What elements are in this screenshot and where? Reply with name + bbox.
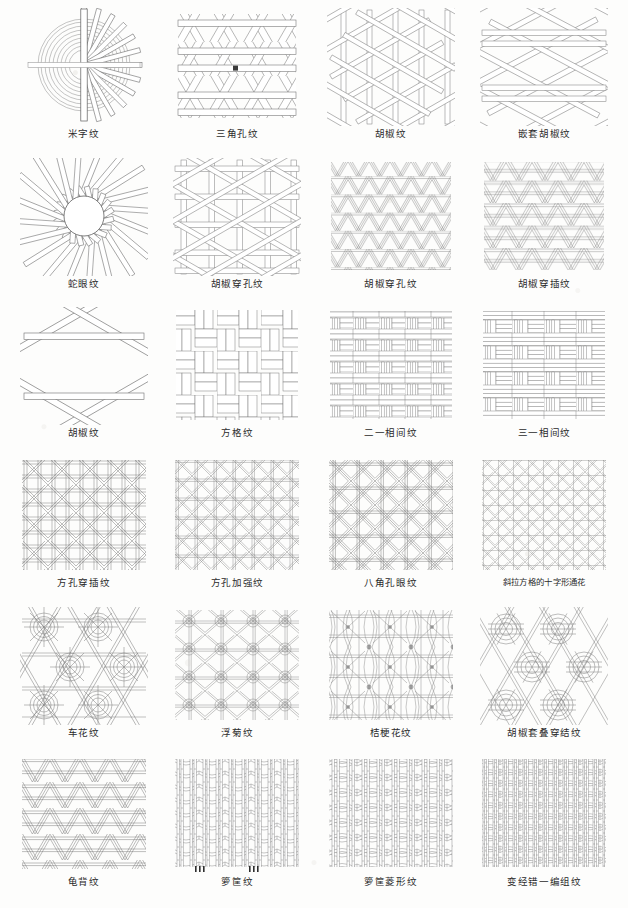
pattern-caption: 斜拉方格的十字形通花	[503, 578, 586, 588]
pattern-caption: 浮菊纹	[221, 728, 253, 739]
pattern-art-wicker-diamond	[317, 756, 465, 874]
pattern-cell-er-yi-xiangjian[interactable]: 二一相间纹	[317, 307, 465, 455]
pattern-caption: 八角孔眼纹	[364, 578, 417, 589]
pattern-caption: 箩筐纹	[221, 877, 253, 888]
pattern-caption: 胡椒纹	[375, 129, 407, 140]
pattern-caption: 龟背纹	[68, 877, 100, 888]
pattern-cell-hu-jiao-wen-1[interactable]: 胡椒纹	[317, 8, 465, 156]
pattern-art-octagon-eye	[317, 457, 465, 575]
pattern-cell-fangkong-jiaqiang[interactable]: 方孔加强纹	[164, 457, 312, 605]
pattern-art-diagonal-cross-openwork	[471, 457, 619, 575]
pattern-art-basket-square	[164, 307, 312, 425]
pattern-caption: 三角孔纹	[216, 129, 258, 140]
pattern-cell-san-jiao-kong[interactable]: 三角孔纹	[164, 8, 312, 156]
pattern-caption: 胡椒穿孔纹	[211, 279, 264, 290]
pattern-cell-bianjing-cuoyi[interactable]: 变经错一编组纹	[471, 756, 619, 904]
pattern-cell-fang-ge-wen[interactable]: 方格纹	[164, 307, 312, 455]
pattern-art-tortoise-shell	[10, 756, 158, 874]
pattern-art-pepper-hex	[317, 8, 465, 126]
pattern-caption: 方孔加强纹	[211, 578, 264, 589]
pattern-caption: 胡椒穿孔纹	[364, 279, 417, 290]
pattern-art-pepper-pierced-a	[164, 158, 312, 276]
pattern-cell-hujiao-taodie[interactable]: 胡椒套叠穿结纹	[471, 607, 619, 755]
pattern-cell-luokuang-lingxing[interactable]: 箩筐菱形纹	[317, 756, 465, 904]
pattern-art-wicker-basket	[164, 756, 312, 874]
pattern-art-basket-3-1	[471, 307, 619, 425]
pattern-caption: 胡椒套叠穿结纹	[507, 728, 581, 739]
pattern-caption: 变经错一编组纹	[507, 877, 581, 888]
pattern-caption: 胡椒穿插纹	[518, 279, 571, 290]
pattern-art-basket-2-1	[317, 307, 465, 425]
pattern-grid: 米字纹	[10, 8, 618, 904]
pattern-cell-san-yi-xiangjian[interactable]: 三一相间纹	[471, 307, 619, 455]
pattern-caption: 箩筐菱形纹	[364, 877, 417, 888]
pattern-art-bellflower	[317, 607, 465, 725]
pattern-art-pepper-pierced-b	[317, 158, 465, 276]
pattern-art-square-hole-reinforced	[164, 457, 312, 575]
pattern-cell-hujiao-chuankong-1[interactable]: 胡椒穿孔纹	[164, 158, 312, 306]
pattern-caption: 方格纹	[221, 428, 253, 439]
pattern-caption: 方孔穿插纹	[57, 578, 110, 589]
pattern-art-floating-chrysanthemum	[164, 607, 312, 725]
pattern-art-pepper-stacked-knot	[471, 607, 619, 725]
pattern-caption: 二一相间纹	[364, 428, 417, 439]
pattern-art-pepper-interlace	[471, 158, 619, 276]
pattern-cell-fu-ju-wen[interactable]: 浮菊纹	[164, 607, 312, 755]
pattern-art-square-hole-interlace	[10, 457, 158, 575]
pattern-cell-gui-bei-wen[interactable]: 龟背纹	[10, 756, 158, 904]
pattern-caption: 米字纹	[68, 129, 100, 140]
pattern-caption: 嵌套胡椒纹	[518, 129, 571, 140]
pattern-art-triangle-hole	[164, 8, 312, 126]
pattern-art-nested-pepper	[471, 8, 619, 126]
pattern-cell-luo-kuang-wen[interactable]: 箩筐纹	[164, 756, 312, 904]
pattern-art-radial-star	[10, 8, 158, 126]
pattern-cell-jiegeng-hua[interactable]: 桔梗花纹	[317, 607, 465, 755]
pattern-art-shifted-warp-weave	[471, 756, 619, 874]
pattern-cell-fangkong-chuancha[interactable]: 方孔穿插纹	[10, 457, 158, 605]
pattern-caption: 胡椒纹	[68, 428, 100, 439]
pattern-caption: 三一相间纹	[518, 428, 571, 439]
pattern-caption: 车花纹	[68, 728, 100, 739]
pattern-caption: 蛇眼纹	[68, 279, 100, 290]
pattern-cell-hujiao-chuankong-2[interactable]: 胡椒穿孔纹	[317, 158, 465, 306]
pattern-cell-mi-zi-wen[interactable]: 米字纹	[10, 8, 158, 156]
pattern-cell-she-yan-wen[interactable]: 蛇眼纹	[10, 158, 158, 306]
pattern-cell-xiela-shizi[interactable]: 斜拉方格的十字形通花	[471, 457, 619, 605]
pattern-cell-qiantao-hujiao[interactable]: 嵌套胡椒纹	[471, 8, 619, 156]
pattern-art-wheel-flower	[10, 607, 158, 725]
pattern-chart-sheet: 米字纹	[0, 0, 628, 908]
pattern-cell-hujiao-chuancha[interactable]: 胡椒穿插纹	[471, 158, 619, 306]
pattern-cell-bajiao-kongyan[interactable]: 八角孔眼纹	[317, 457, 465, 605]
pattern-art-pepper-open	[10, 307, 158, 425]
pattern-art-snake-eye	[10, 158, 158, 276]
pattern-caption: 桔梗花纹	[370, 728, 412, 739]
pattern-cell-che-hua-wen[interactable]: 车花纹	[10, 607, 158, 755]
pattern-cell-hu-jiao-wen-2[interactable]: 胡椒纹	[10, 307, 158, 455]
